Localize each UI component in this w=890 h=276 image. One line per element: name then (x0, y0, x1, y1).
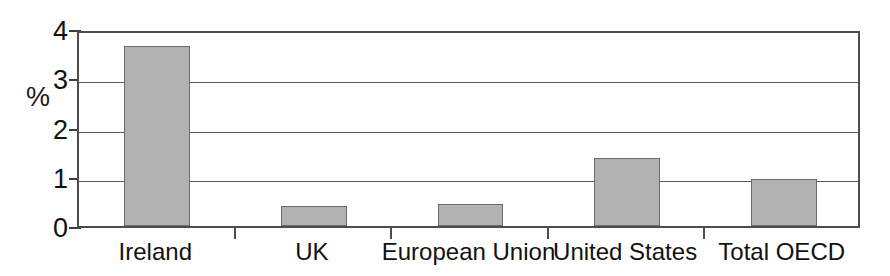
bar-ireland[interactable] (124, 46, 190, 226)
y-tick-label: 1 (42, 165, 68, 192)
plot-area (77, 31, 860, 228)
x-axis-label-uk: UK (295, 238, 328, 266)
x-axis-label-ireland: Ireland (119, 238, 192, 266)
y-axis-tick-labels: 01234 (38, 0, 68, 276)
x-axis-label-united-states: United States (553, 238, 697, 266)
bar-european-union[interactable] (438, 204, 504, 226)
x-axis-tick-labels: IrelandUKEuropean UnionUnited StatesTota… (77, 238, 860, 272)
bar-uk[interactable] (281, 206, 347, 226)
x-axis-label-european-union: European Union (382, 238, 555, 266)
y-tick-label: 3 (42, 67, 68, 94)
bars-layer (79, 33, 858, 226)
bar-chart: % 01234 IrelandUKEuropean UnionUnited St… (0, 0, 890, 276)
x-axis-label-total-oecd: Total OECD (718, 238, 845, 266)
y-tick-label: 4 (42, 18, 68, 45)
y-tick-label: 0 (42, 215, 68, 242)
bar-united-states[interactable] (594, 158, 660, 226)
y-tick-label: 2 (42, 116, 68, 143)
bar-total-oecd[interactable] (751, 179, 817, 226)
